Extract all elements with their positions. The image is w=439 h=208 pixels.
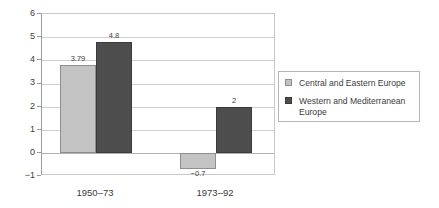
y-axis-tick-label: 1	[5, 125, 35, 134]
gridline-zero	[42, 153, 274, 154]
x-axis-tick-label-1950-73: 1950–73	[59, 188, 131, 198]
bar-value-label: 4.8	[96, 32, 132, 40]
legend-label: Central and Eastern Europe	[299, 78, 417, 89]
gridline-5	[42, 37, 274, 38]
y-axis-tick-label: 2	[5, 102, 35, 111]
bar-central-eastern-europe-1950-73	[60, 65, 96, 153]
y-axis-tick-label: 6	[5, 9, 35, 18]
y-axis: 6 5 4 3 2 1 0 −1	[0, 0, 41, 208]
legend-label: Western and Mediterranean Europe	[299, 96, 417, 117]
legend-swatch-icon	[285, 97, 292, 104]
y-axis-tick-label: 5	[5, 32, 35, 41]
legend: Central and Eastern Europe Western and M…	[278, 71, 420, 122]
bar-value-label: 3.79	[60, 55, 96, 63]
legend-item-western-mediterranean-europe: Western and Mediterranean Europe	[285, 96, 417, 117]
plot-area: 3.79 4.8 −0.7 2	[41, 13, 275, 175]
bar-western-mediterranean-europe-1973-92	[216, 107, 252, 153]
y-axis-tick-label: 3	[5, 78, 35, 87]
bar-chart: 6 5 4 3 2 1 0 −1 3.79 4.8 −0.7	[0, 0, 439, 208]
y-axis-tick-label: 0	[5, 148, 35, 157]
bar-central-eastern-europe-1973-92	[180, 153, 216, 169]
bar-western-mediterranean-europe-1950-73	[96, 42, 132, 153]
legend-item-central-eastern-europe: Central and Eastern Europe	[285, 78, 417, 89]
x-axis-tick-label-1973-92: 1973–92	[179, 188, 251, 198]
bar-value-label: 2	[216, 97, 252, 105]
y-axis-tick-label: 4	[5, 55, 35, 64]
y-axis-tick-label: −1	[5, 171, 35, 180]
y-axis-tick-mark	[37, 175, 41, 176]
legend-swatch-icon	[285, 79, 292, 86]
bar-value-label: −0.7	[180, 170, 216, 178]
